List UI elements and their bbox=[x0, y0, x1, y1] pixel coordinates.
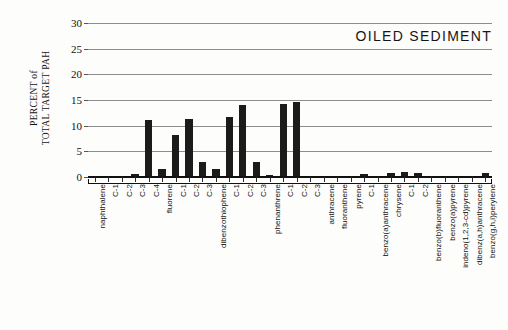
x-tick-label: C-3 bbox=[205, 184, 214, 197]
x-tick-mark bbox=[458, 177, 459, 182]
x-tick-mark bbox=[324, 177, 325, 182]
x-tick-mark bbox=[283, 177, 284, 182]
x-tick-mark bbox=[431, 177, 432, 182]
y-tick-mark-30 bbox=[84, 23, 88, 24]
x-tick-label: C-1 bbox=[232, 184, 241, 197]
x-tick-mark bbox=[135, 177, 136, 182]
y-tick-mark-15 bbox=[84, 100, 88, 101]
x-tick-label: C-3 bbox=[138, 184, 147, 197]
x-tick-mark bbox=[297, 177, 298, 182]
bar bbox=[280, 104, 287, 177]
x-tick-label: C-2 bbox=[246, 184, 255, 197]
y-axis-tick-labels: 051015202530 bbox=[54, 23, 82, 177]
x-tick-mark bbox=[95, 177, 96, 182]
chart-figure: PERCENT of TOTAL TARGET PAH 051015202530… bbox=[0, 0, 508, 330]
y-tick-mark-20 bbox=[84, 74, 88, 75]
x-tick-mark bbox=[472, 177, 473, 182]
bar bbox=[253, 162, 260, 177]
x-tick-mark bbox=[122, 177, 123, 182]
x-tick-label: fluoranthene bbox=[340, 184, 349, 229]
y-tick-mark-10 bbox=[84, 126, 88, 127]
x-tick-mark bbox=[391, 177, 392, 182]
x-tick-label: fluorene bbox=[165, 184, 174, 213]
y-tick-mark-0 bbox=[84, 177, 88, 178]
x-tick-mark bbox=[445, 177, 446, 182]
x-tick-mark bbox=[229, 177, 230, 182]
bar bbox=[226, 117, 233, 177]
x-tick-label: C-1 bbox=[407, 184, 416, 197]
x-tick-label: C-1 bbox=[179, 184, 188, 197]
chart-title: OILED SEDIMENT bbox=[356, 28, 492, 44]
x-tick-mark bbox=[270, 177, 271, 182]
x-tick-mark bbox=[310, 177, 311, 182]
y-axis-title-line1: PERCENT of bbox=[29, 51, 41, 146]
x-tick-label: chrysene bbox=[394, 184, 403, 217]
x-tick-label: C-2 bbox=[192, 184, 201, 197]
x-tick-label: C-2 bbox=[421, 184, 430, 197]
x-tick-mark bbox=[351, 177, 352, 182]
bar bbox=[293, 102, 300, 177]
x-tick-mark bbox=[108, 177, 109, 182]
x-tick-label: dibenz(a,h)anthracene bbox=[475, 184, 484, 265]
x-tick-mark bbox=[189, 177, 190, 182]
y-tick-mark-25 bbox=[84, 49, 88, 50]
x-axis-tick-labels: naphthaleneC-1C-2C-3C-4fluoreneC-1C-2C-3… bbox=[88, 184, 492, 330]
y-tick-label-5: 5 bbox=[56, 145, 82, 157]
bar bbox=[172, 135, 179, 177]
x-tick-mark bbox=[418, 177, 419, 182]
x-tick-label: C-3 bbox=[259, 184, 268, 197]
y-tick-label-20: 20 bbox=[56, 68, 82, 80]
bar bbox=[199, 162, 206, 177]
y-tick-label-0: 0 bbox=[56, 171, 82, 183]
y-axis-title-line2: TOTAL TARGET PAH bbox=[40, 51, 52, 146]
x-tick-label: C-1 bbox=[367, 184, 376, 197]
x-tick-mark bbox=[162, 177, 163, 182]
x-tick-mark bbox=[216, 177, 217, 182]
x-tick-mark bbox=[256, 177, 257, 182]
x-tick-label: benzo(b)fluoranthene bbox=[434, 184, 443, 261]
y-tick-label-10: 10 bbox=[56, 120, 82, 132]
y-tick-label-25: 25 bbox=[56, 43, 82, 55]
x-tick-label: dibenzothiophene bbox=[219, 184, 228, 248]
x-tick-mark bbox=[202, 177, 203, 182]
bar bbox=[145, 120, 152, 177]
x-tick-mark bbox=[149, 177, 150, 182]
x-tick-label: benzo(g,h,i)perylene bbox=[488, 184, 497, 258]
x-tick-mark bbox=[378, 177, 379, 182]
x-tick-label: C-4 bbox=[152, 184, 161, 197]
x-tick-mark bbox=[337, 177, 338, 182]
x-tick-label: C-1 bbox=[286, 184, 295, 197]
x-tick-label: C-2 bbox=[125, 184, 134, 197]
bar-series bbox=[88, 23, 492, 177]
x-tick-label: naphthalene bbox=[98, 184, 107, 229]
y-tick-label-30: 30 bbox=[56, 17, 82, 29]
y-tick-label-15: 15 bbox=[56, 94, 82, 106]
x-tick-label: anthracene bbox=[327, 184, 336, 225]
y-axis-title: PERCENT of TOTAL TARGET PAH bbox=[22, 18, 58, 178]
x-tick-label: C-3 bbox=[313, 184, 322, 197]
x-tick-label: C-1 bbox=[111, 184, 120, 197]
x-tick-label: benzo(a)anthracene bbox=[381, 184, 390, 257]
x-tick-mark bbox=[485, 177, 486, 182]
x-tick-mark bbox=[243, 177, 244, 182]
x-tick-label: pyrene bbox=[354, 184, 363, 209]
x-tick-label: benzo(a)pyrene bbox=[448, 184, 457, 241]
x-tick-mark bbox=[364, 177, 365, 182]
x-tick-mark bbox=[404, 177, 405, 182]
x-tick-label: phenanthrene bbox=[273, 184, 282, 234]
y-tick-mark-5 bbox=[84, 151, 88, 152]
bar bbox=[239, 105, 246, 177]
x-tick-mark bbox=[176, 177, 177, 182]
x-tick-label: indeno(1,2,3-cd)pyrene bbox=[461, 184, 470, 268]
x-tick-label: C-2 bbox=[300, 184, 309, 197]
bar bbox=[185, 119, 192, 177]
